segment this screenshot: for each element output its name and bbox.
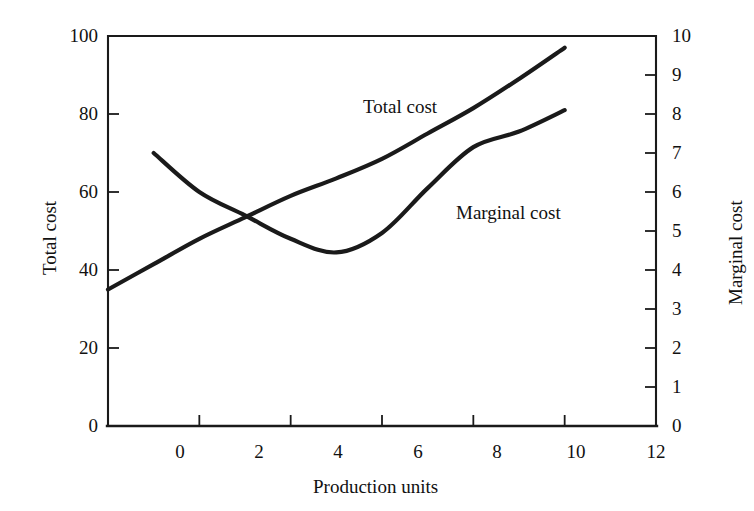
x-tick-label-6: 6 (388, 442, 448, 461)
chart-figure: 100 80 60 40 20 0 10 9 8 7 6 5 4 3 2 1 0… (0, 0, 754, 511)
y2-tick-label-0: 0 (672, 416, 682, 435)
y2-tick-label-7: 7 (672, 143, 682, 162)
y2-tick-label-10: 10 (672, 26, 691, 45)
x-axis-title: Production units (313, 477, 438, 496)
series-annotation-marginal-cost: Marginal cost (456, 203, 561, 222)
y-tick-label-80: 80 (44, 104, 98, 123)
x-tick-label-12: 12 (626, 442, 686, 461)
cost-curves-plot (0, 0, 754, 511)
y2-tick-label-8: 8 (672, 104, 682, 123)
x-tick-label-0: 0 (150, 442, 210, 461)
x-tick-label-2: 2 (229, 442, 289, 461)
x-tick-label-4: 4 (308, 442, 368, 461)
y-axis-left-ticks (108, 114, 119, 348)
x-tick-label-10: 10 (546, 442, 606, 461)
y2-tick-label-4: 4 (672, 260, 682, 279)
y2-tick-label-6: 6 (672, 182, 682, 201)
y-tick-label-60: 60 (44, 182, 98, 201)
y2-tick-label-2: 2 (672, 338, 682, 357)
y-tick-label-0: 0 (44, 416, 98, 435)
y2-tick-label-5: 5 (672, 221, 682, 240)
y2-tick-label-1: 1 (672, 377, 682, 396)
y2-tick-label-3: 3 (672, 299, 682, 318)
y-axis-right-ticks (645, 75, 656, 426)
x-axis-ticks (108, 415, 565, 426)
x-tick-label-8: 8 (467, 442, 527, 461)
y-axis-right-title: Marginal cost (726, 200, 745, 305)
y-axis-left-title: Total cost (40, 201, 59, 275)
y2-tick-label-9: 9 (672, 65, 682, 84)
y-tick-label-20: 20 (44, 338, 98, 357)
series-annotation-total-cost: Total cost (363, 97, 437, 116)
y-tick-label-100: 100 (44, 26, 98, 45)
